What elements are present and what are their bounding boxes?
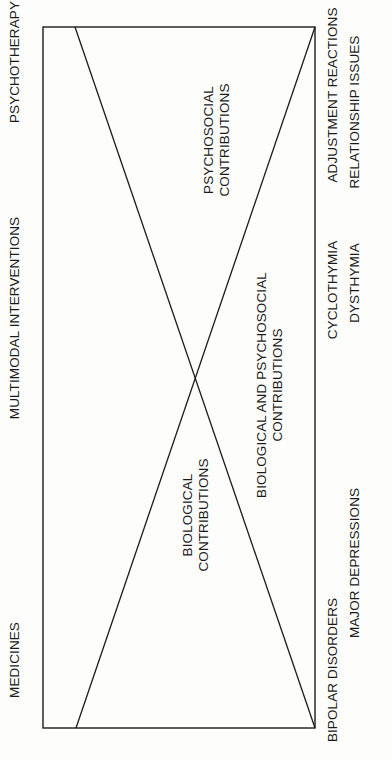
region-psychosocial-line1: PSYCHOSOCIAL bbox=[201, 83, 217, 196]
region-biological-line2: CONTRIBUTIONS bbox=[196, 458, 212, 571]
region-combined-label: BIOLOGICAL AND PSYCHOSOCIAL CONTRIBUTION… bbox=[254, 272, 286, 498]
intervention-medicines-label: MEDICINES bbox=[8, 622, 22, 698]
intervention-multimodal-label: MULTIMODAL INTERVENTIONS bbox=[8, 217, 22, 419]
condition-dysthymia-label: DYSTHYMIA bbox=[348, 243, 362, 323]
condition-adjustment-reactions-label: ADJUSTMENT REACTIONS bbox=[326, 7, 340, 182]
region-psychosocial-label: PSYCHOSOCIAL CONTRIBUTIONS bbox=[201, 83, 233, 196]
region-biological-line1: BIOLOGICAL bbox=[180, 458, 196, 571]
region-combined-line2: CONTRIBUTIONS bbox=[270, 272, 286, 498]
region-combined-line1: BIOLOGICAL AND PSYCHOSOCIAL bbox=[254, 272, 270, 498]
condition-bipolar-disorders-label: BIPOLAR DISORDERS bbox=[326, 598, 340, 742]
condition-relationship-issues-label: RELATIONSHIP ISSUES bbox=[348, 36, 362, 189]
region-psychosocial-line2: CONTRIBUTIONS bbox=[217, 83, 233, 196]
condition-cyclothymia-label: CYCLOTHYMIA bbox=[326, 241, 340, 340]
intervention-psychotherapy-label: PSYCHOTHERAPY bbox=[8, 1, 22, 123]
condition-major-depressions-label: MAJOR DEPRESSIONS bbox=[348, 488, 362, 638]
region-biological-label: BIOLOGICAL CONTRIBUTIONS bbox=[180, 458, 212, 571]
